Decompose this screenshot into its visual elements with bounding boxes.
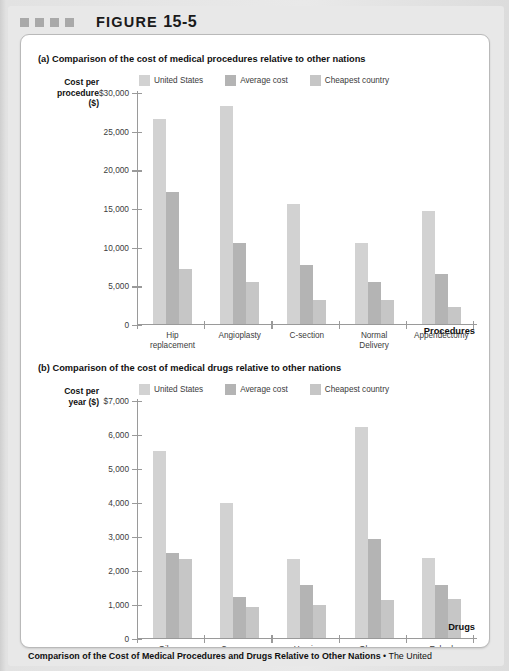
y-axis-tick-label: 1,000 [108, 600, 129, 610]
legend-label: United States [154, 385, 203, 394]
bar [422, 558, 435, 638]
y-axis-tick-label: 2,000 [108, 566, 129, 576]
decorative-squares [20, 18, 74, 27]
y-axis-tick-label: 5,000 [108, 464, 129, 474]
panel-b-y-axis-title: Cost peryear ($) [33, 386, 99, 407]
x-axis-tick [339, 635, 340, 643]
figure-number: 15-5 [163, 13, 197, 30]
panel-a-plot-area: 05,00010,00015,00020,00025,000$30,000Hip… [137, 91, 473, 325]
bar [435, 274, 448, 323]
legend-label: United States [154, 76, 203, 85]
bar [166, 192, 179, 323]
y-axis-tick-label: 25,000 [104, 127, 129, 137]
bar [179, 269, 192, 323]
y-axis-tick-label: 0 [124, 320, 129, 330]
legend-swatch-icon [225, 384, 236, 395]
bar-group [153, 451, 192, 638]
y-axis-tick [132, 469, 142, 470]
y-axis-tick [132, 170, 142, 171]
bar [300, 265, 313, 324]
y-axis-tick [132, 132, 142, 133]
y-axis-tick [132, 435, 142, 436]
axis-title-line: procedure [33, 88, 99, 99]
bar [287, 559, 300, 637]
x-axis-tick [339, 321, 340, 329]
bar [287, 204, 300, 324]
legend-entry: Average cost [225, 384, 288, 395]
y-axis-tick-label: 6,000 [108, 430, 129, 440]
x-axis-category-label: Gleevec [359, 645, 389, 648]
x-axis-category-label: Gilenya [159, 645, 187, 648]
bar-group [355, 243, 394, 323]
bar [435, 585, 448, 638]
legend-swatch-icon [310, 75, 321, 86]
panel-b-x-axis-caption: Drugs [448, 622, 475, 632]
figure-label: FIGURE [96, 14, 158, 30]
x-axis-tick [137, 321, 138, 329]
panel-a-title: (a) Comparison of the cost of medical pr… [38, 54, 366, 64]
legend-swatch-icon [139, 75, 150, 86]
bar [422, 211, 435, 323]
y-axis-tick [132, 248, 142, 249]
chart-panel-drugs: (b) Comparison of the cost of medical dr… [21, 347, 490, 648]
panel-b-x-axis-line [137, 638, 477, 639]
y-axis-tick-label: 4,000 [108, 498, 129, 508]
panel-b-legend: United StatesAverage costCheapest countr… [139, 384, 406, 395]
x-axis-tick [271, 635, 272, 643]
legend-swatch-icon [225, 75, 236, 86]
bar [220, 106, 233, 324]
y-axis-tick [132, 503, 142, 504]
bar [448, 307, 461, 323]
y-axis-tick-label: $7,000 [104, 396, 129, 406]
bar [166, 553, 179, 638]
y-axis-tick [132, 93, 142, 94]
x-axis-tick [204, 321, 205, 329]
x-axis-tick [137, 635, 138, 643]
y-axis-tick-label: 3,000 [108, 532, 129, 542]
bar-group [220, 503, 259, 637]
legend-entry: United States [139, 75, 203, 86]
bar [233, 243, 246, 323]
panel-a-x-axis-line [137, 324, 477, 325]
y-axis-tick [132, 209, 142, 210]
figure-caption-body: The United [388, 651, 431, 661]
y-axis-tick [132, 286, 142, 287]
x-axis-tick [271, 321, 272, 329]
bar [355, 427, 368, 638]
bar-group [355, 427, 394, 638]
y-axis-tick [132, 537, 142, 538]
bar [381, 600, 394, 637]
y-axis-tick-label: 15,000 [104, 204, 129, 214]
bar [246, 282, 259, 324]
axis-title-line: Cost per [33, 386, 99, 397]
bar [368, 282, 381, 324]
decor-square-icon [20, 18, 29, 27]
decor-square-icon [35, 18, 44, 27]
y-axis-tick-label: 0 [124, 634, 129, 644]
figure-card: (a) Comparison of the cost of medical pr… [20, 34, 490, 648]
decor-square-icon [50, 18, 59, 27]
bar [313, 605, 326, 637]
legend-label: Cheapest country [325, 76, 389, 85]
panel-a-y-axis-title: Cost perprocedure($) [33, 77, 99, 109]
bar [355, 243, 368, 323]
x-axis-category-label: Enbrel [429, 645, 453, 648]
bar [313, 300, 326, 323]
legend-label: Average cost [240, 385, 288, 394]
legend-entry: Cheapest country [310, 75, 389, 86]
axis-title-line: Cost per [33, 77, 99, 88]
bar [381, 300, 394, 324]
x-axis-tick [204, 635, 205, 643]
x-axis-tick [406, 635, 407, 643]
bar [153, 119, 166, 324]
y-axis-tick [132, 605, 142, 606]
y-axis-tick-label: 5,000 [108, 281, 129, 291]
bar-group [422, 211, 461, 323]
panel-b-title: (b) Comparison of the cost of medical dr… [38, 363, 341, 373]
legend-label: Cheapest country [325, 385, 389, 394]
figure-caption-bold: Comparison of the Cost of Medical Proced… [28, 651, 381, 661]
legend-swatch-icon [310, 384, 321, 395]
figure-header: FIGURE 15-5 [8, 8, 497, 36]
decor-square-icon [65, 18, 74, 27]
legend-label: Average cost [240, 76, 288, 85]
